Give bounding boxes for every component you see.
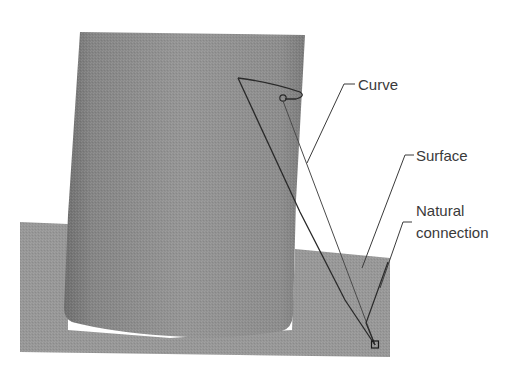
curve-label: Curve xyxy=(358,76,398,93)
diagram-canvas: Curve Surface Natural connection xyxy=(0,0,520,372)
cylinder xyxy=(64,32,305,337)
callout-natural-connection: Natural connection xyxy=(380,202,489,288)
curve-leader-line xyxy=(307,84,355,163)
callout-curve: Curve xyxy=(307,76,398,163)
natural-connection-label-line2: connection xyxy=(416,224,489,241)
surface-label: Surface xyxy=(416,147,468,164)
natural-connection-label-line1: Natural xyxy=(416,202,464,219)
surface-leader-line xyxy=(362,155,414,268)
